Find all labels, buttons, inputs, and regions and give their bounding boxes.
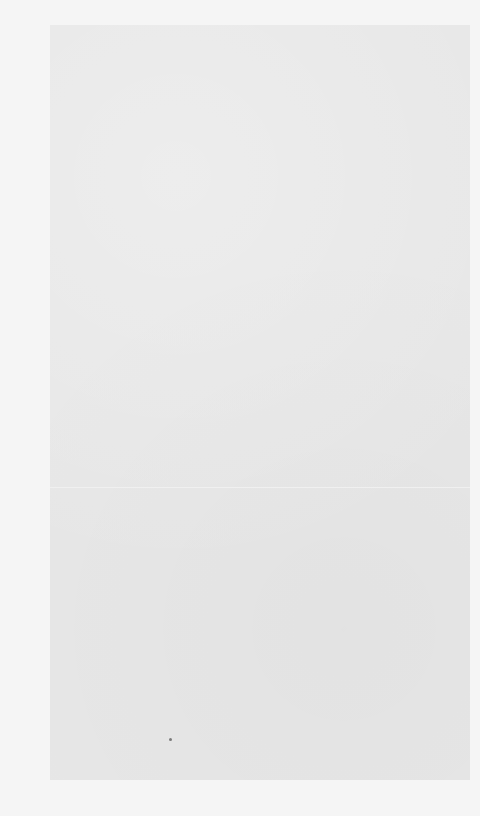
scan-surface xyxy=(0,0,480,816)
fold-line xyxy=(50,487,470,488)
dust-speck xyxy=(169,738,172,741)
paper-page xyxy=(50,25,470,780)
